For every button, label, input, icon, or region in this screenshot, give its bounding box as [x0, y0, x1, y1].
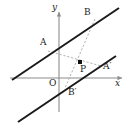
label-x-axis: x	[115, 79, 120, 88]
label-origin: O	[49, 79, 56, 88]
label-point-P: P	[80, 65, 86, 74]
label-y-axis: y	[52, 3, 57, 12]
label-point-B2: B′	[68, 88, 77, 97]
label-point-A2: A′	[103, 62, 112, 71]
label-point-B: B	[84, 8, 91, 17]
dashed-segment-A-to-A-prime	[48, 51, 101, 66]
y-axis-arrow	[57, 12, 61, 17]
geometry-figure: ABPA′B′Oyx	[0, 0, 126, 128]
label-point-A: A	[40, 38, 47, 47]
